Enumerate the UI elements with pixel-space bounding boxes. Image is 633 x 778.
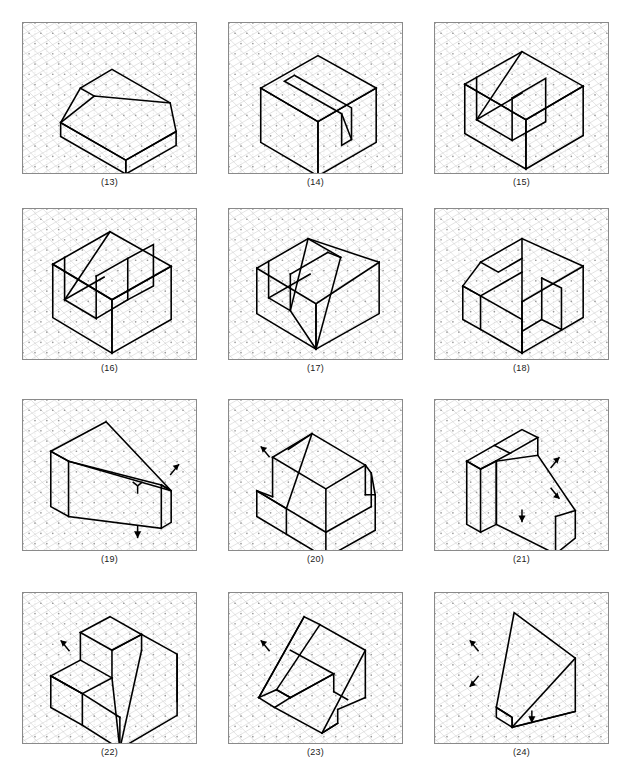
isometric-solid-22 xyxy=(23,593,196,743)
isometric-solid-17 xyxy=(229,209,402,359)
panel-frame-22 xyxy=(22,592,197,744)
view-arrow-right-lower xyxy=(551,488,560,499)
view-arrow-right-upper xyxy=(551,457,560,468)
figure-caption-18: (18) xyxy=(434,363,609,373)
figure-caption-22: (22) xyxy=(22,747,197,757)
view-arrow-left-upper xyxy=(470,640,479,651)
figure-caption-16: (16) xyxy=(22,363,197,373)
isometric-solid-15 xyxy=(435,23,608,173)
view-arrow-left xyxy=(261,446,270,457)
isometric-solid-18 xyxy=(435,209,608,359)
panel-frame-13 xyxy=(22,22,197,174)
figure-panel-18: (18) xyxy=(434,208,609,377)
panel-frame-17 xyxy=(228,208,403,360)
figure-caption-23: (23) xyxy=(228,747,403,757)
figure-caption-19: (19) xyxy=(22,554,197,564)
view-arrow-front xyxy=(133,482,143,494)
figure-panel-24: (24) xyxy=(434,592,609,761)
figure-caption-15: (15) xyxy=(434,177,609,187)
panel-frame-21 xyxy=(434,399,609,551)
figure-panel-19: (19) xyxy=(22,399,197,568)
figure-panel-20: (20) xyxy=(228,399,403,568)
figure-caption-21: (21) xyxy=(434,554,609,564)
drawing-page: (13)(14)(15)(16)(17)(18)(19)(20)(21)(22)… xyxy=(0,0,633,778)
figure-panel-13: (13) xyxy=(22,22,197,191)
figure-panel-17: (17) xyxy=(228,208,403,377)
view-arrow-left xyxy=(261,640,270,651)
view-arrow-right xyxy=(170,464,179,475)
isometric-solid-23 xyxy=(229,593,402,743)
panel-frame-20 xyxy=(228,399,403,551)
panel-frame-19 xyxy=(22,399,197,551)
view-arrow-bottom xyxy=(134,525,141,538)
figure-panel-22: (22) xyxy=(22,592,197,761)
panel-frame-23 xyxy=(228,592,403,744)
view-arrow-bottom xyxy=(518,510,525,523)
panel-frame-24 xyxy=(434,592,609,744)
isometric-solid-14 xyxy=(229,23,402,173)
figure-panel-23: (23) xyxy=(228,592,403,761)
isometric-solid-21 xyxy=(435,400,608,550)
view-arrow-left-lower xyxy=(470,676,479,687)
figure-caption-14: (14) xyxy=(228,177,403,187)
figure-caption-20: (20) xyxy=(228,554,403,564)
panel-frame-18 xyxy=(434,208,609,360)
figure-caption-13: (13) xyxy=(22,177,197,187)
figure-caption-17: (17) xyxy=(228,363,403,373)
isometric-solid-16 xyxy=(23,209,196,359)
view-arrow-left xyxy=(61,640,70,651)
isometric-solid-20 xyxy=(229,400,402,550)
isometric-solid-19 xyxy=(23,400,196,550)
isometric-solid-24 xyxy=(435,593,608,743)
isometric-solid-13 xyxy=(23,23,196,173)
figure-panel-14: (14) xyxy=(228,22,403,191)
panel-frame-15 xyxy=(434,22,609,174)
panel-frame-16 xyxy=(22,208,197,360)
figure-panel-16: (16) xyxy=(22,208,197,377)
figure-panel-15: (15) xyxy=(434,22,609,191)
figure-panel-21: (21) xyxy=(434,399,609,568)
panel-frame-14 xyxy=(228,22,403,174)
figure-caption-24: (24) xyxy=(434,747,609,757)
